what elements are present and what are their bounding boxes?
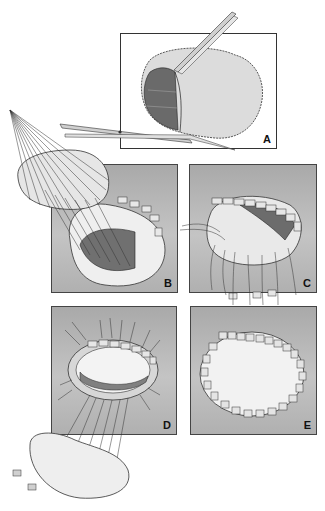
panel-d: D [51, 306, 177, 435]
panel-c: C [189, 164, 317, 293]
panel-label-a: A [263, 133, 271, 145]
panel-label-b: B [164, 277, 172, 289]
panel-label-c: C [303, 277, 311, 289]
panel-label-e: E [304, 419, 311, 431]
panel-b: B [51, 164, 178, 293]
panel-a: A [120, 33, 277, 149]
panel-e: E [190, 306, 317, 435]
panel-label-d: D [163, 419, 171, 431]
